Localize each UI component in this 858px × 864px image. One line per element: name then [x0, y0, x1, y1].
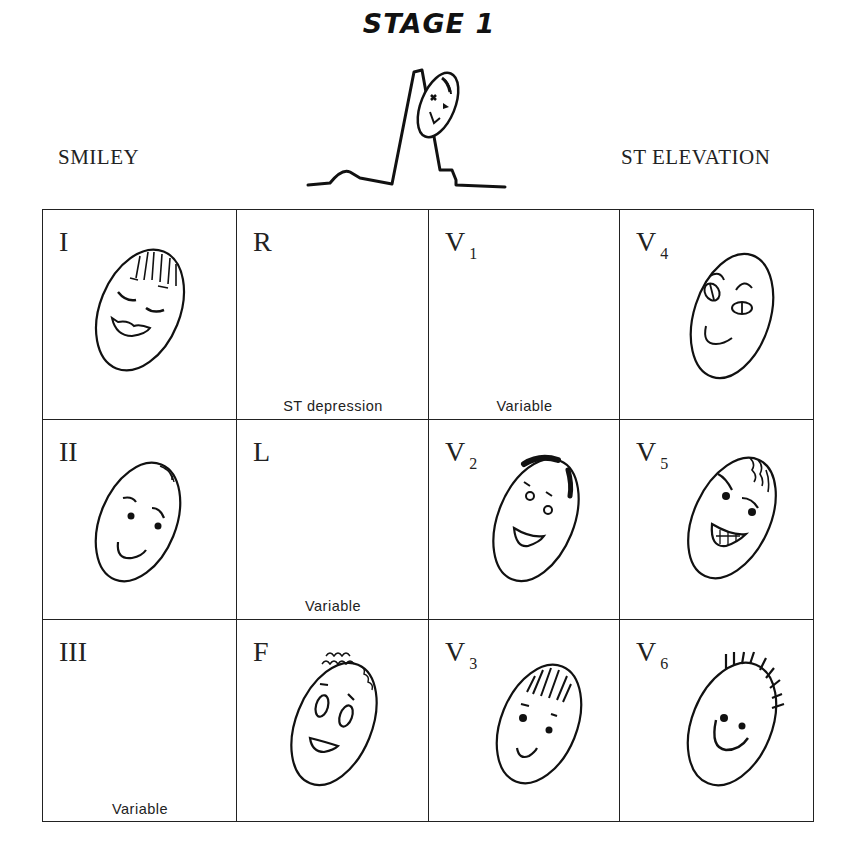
lead-label: III — [59, 636, 91, 673]
lead-label: L — [253, 436, 274, 473]
lead-label: V5 — [636, 436, 668, 473]
lead-label: V2 — [445, 436, 477, 473]
cell-lead-l: L Variable — [237, 420, 429, 620]
smiling-face-spiky-hair-icon — [680, 648, 800, 798]
smiley-label: SMILEY — [58, 145, 139, 170]
cell-lead-v2: V2 — [429, 420, 620, 620]
smiling-face-striped-hair-icon — [487, 658, 597, 798]
lead-label: V1 — [445, 226, 477, 263]
smiling-face-oval-eyes-icon — [680, 248, 790, 388]
leaning-face-icon — [410, 67, 467, 143]
cell-lead-v5: V5 — [620, 420, 813, 620]
lead-label: F — [253, 636, 273, 673]
cell-lead-f: F — [237, 620, 429, 823]
ecg-waveform-icon — [300, 60, 515, 195]
cell-note: Variable — [43, 801, 237, 817]
page-title: STAGE 1 — [0, 8, 858, 39]
lead-label: R — [253, 226, 276, 263]
cell-note: Variable — [429, 398, 620, 414]
cell-lead-v4: V4 — [620, 210, 813, 420]
cell-lead-v3: V3 — [429, 620, 620, 823]
smiling-face-dot-eyes-icon — [88, 458, 198, 598]
lead-label: V4 — [636, 226, 668, 263]
cell-lead-iii: III Variable — [43, 620, 237, 823]
lead-label: I — [59, 226, 72, 263]
smiling-face-closed-eyes-bangs-icon — [88, 240, 198, 380]
cell-note: Variable — [237, 598, 429, 614]
surprised-face-curly-hair-icon — [282, 648, 397, 798]
cell-lead-v1: V1 Variable — [429, 210, 620, 420]
lead-grid: I R ST depression V1 Variable V4 — [42, 209, 814, 822]
cell-lead-v6: V6 — [620, 620, 813, 823]
grinning-face-curly-hair-icon — [484, 450, 594, 590]
cell-lead-i: I — [43, 210, 237, 420]
st-elevation-label: ST ELEVATION — [621, 145, 770, 170]
cell-lead-ii: II — [43, 420, 237, 620]
lead-label: V6 — [636, 636, 668, 673]
cell-lead-r: R ST depression — [237, 210, 429, 420]
lead-label: II — [59, 436, 82, 473]
lead-label: V3 — [445, 636, 477, 673]
toothy-grin-face-icon — [680, 450, 790, 590]
cell-note: ST depression — [237, 398, 429, 414]
